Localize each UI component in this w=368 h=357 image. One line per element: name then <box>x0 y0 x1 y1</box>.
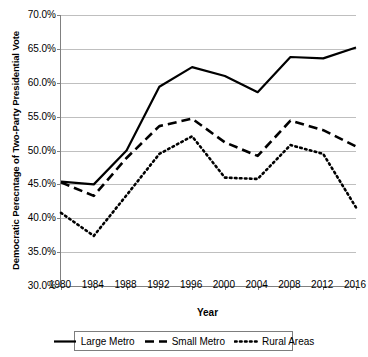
y-axis-tick-label: 50.0% <box>4 146 56 156</box>
legend-item[interactable]: Rural Areas <box>234 336 314 347</box>
x-axis-title: Year <box>60 307 355 318</box>
legend-item[interactable]: Small Metro <box>144 336 225 347</box>
y-axis-tick-label: 55.0% <box>4 112 56 122</box>
legend-item-label: Small Metro <box>172 336 225 347</box>
plot-area <box>60 15 356 287</box>
legend-item[interactable]: Large Metro <box>53 336 135 347</box>
series-line <box>61 48 356 185</box>
line-chart: Democratic Perecntage of Two-Party Presi… <box>0 0 368 357</box>
legend-swatch-dotted-icon <box>234 337 258 346</box>
y-axis-tick-label: 60.0% <box>4 78 56 88</box>
legend-item-label: Rural Areas <box>262 336 314 347</box>
legend-swatch-dashed-icon <box>144 337 168 346</box>
y-axis-tick-label: 45.0% <box>4 179 56 189</box>
series-line <box>61 136 356 236</box>
y-axis-tick-label: 35.0% <box>4 247 56 257</box>
x-axis-tick-label: 2016 <box>335 279 368 290</box>
y-axis-tick-label: 70.0% <box>4 10 56 20</box>
series-layer <box>61 15 356 286</box>
y-axis-tick-label: 65.0% <box>4 44 56 54</box>
y-axis-tick-label: 40.0% <box>4 213 56 223</box>
chart-legend: Large MetroSmall MetroRural Areas <box>74 331 293 351</box>
legend-swatch-solid-icon <box>53 337 77 346</box>
legend-item-label: Large Metro <box>81 336 135 347</box>
